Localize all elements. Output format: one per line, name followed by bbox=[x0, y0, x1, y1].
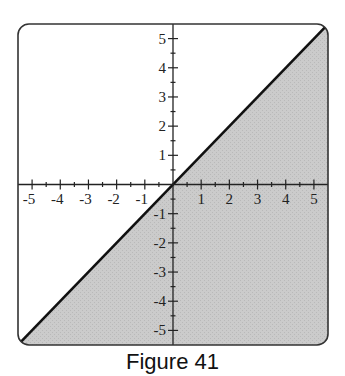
y-tick-label: 5 bbox=[159, 31, 167, 47]
x-tick-label: 5 bbox=[310, 191, 318, 207]
y-tick-label: -2 bbox=[154, 235, 167, 251]
y-tick-label: 4 bbox=[159, 60, 167, 76]
x-tick-label: -3 bbox=[79, 191, 92, 207]
x-tick-label: 4 bbox=[282, 191, 290, 207]
y-tick-label: 1 bbox=[159, 147, 167, 163]
figure-caption: Figure 41 bbox=[0, 349, 345, 375]
x-tick-label: -1 bbox=[136, 191, 149, 207]
x-tick-label: -4 bbox=[51, 191, 64, 207]
y-tick-label: -1 bbox=[154, 206, 167, 222]
x-tick-label: -2 bbox=[107, 191, 120, 207]
chart-figure: -5-4-3-2-112345-5-4-3-2-112345 bbox=[0, 0, 345, 376]
x-tick-label: -5 bbox=[23, 191, 36, 207]
x-tick-label: 3 bbox=[254, 191, 262, 207]
y-tick-label: 3 bbox=[159, 89, 167, 105]
x-tick-label: 2 bbox=[226, 191, 234, 207]
x-tick-label: 1 bbox=[197, 191, 205, 207]
y-tick-label: 2 bbox=[159, 118, 167, 134]
y-tick-label: -4 bbox=[154, 293, 167, 309]
y-tick-label: -3 bbox=[154, 264, 167, 280]
y-tick-label: -5 bbox=[154, 322, 167, 338]
